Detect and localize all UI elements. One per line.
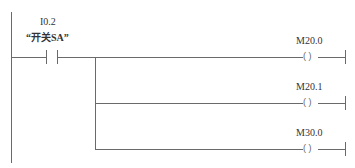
no-contact-icon-left[interactable] — [46, 50, 47, 64]
left-power-rail — [11, 12, 12, 163]
rung-wire — [95, 57, 303, 58]
coil-icon[interactable]: ( ) — [303, 51, 312, 61]
coil-address-3: M30.0 — [296, 127, 322, 138]
coil-address-2: M20.1 — [296, 81, 322, 92]
coil-address-1: M20.0 — [296, 35, 322, 46]
right-end-marker — [345, 142, 346, 156]
right-end-marker — [345, 50, 346, 64]
coil-icon[interactable]: ( ) — [303, 143, 312, 153]
rung-wire — [95, 103, 303, 104]
rung-wire — [57, 57, 95, 58]
rung-wire — [318, 149, 346, 150]
coil-icon[interactable]: ( ) — [303, 97, 312, 107]
rung-wire — [11, 57, 46, 58]
rung-wire — [318, 57, 346, 58]
contact-symbol: “开关SA” — [26, 29, 69, 44]
rung-wire — [318, 103, 346, 104]
contact-address: I0.2 — [40, 16, 56, 27]
right-end-marker — [345, 96, 346, 110]
rung-wire — [95, 149, 303, 150]
